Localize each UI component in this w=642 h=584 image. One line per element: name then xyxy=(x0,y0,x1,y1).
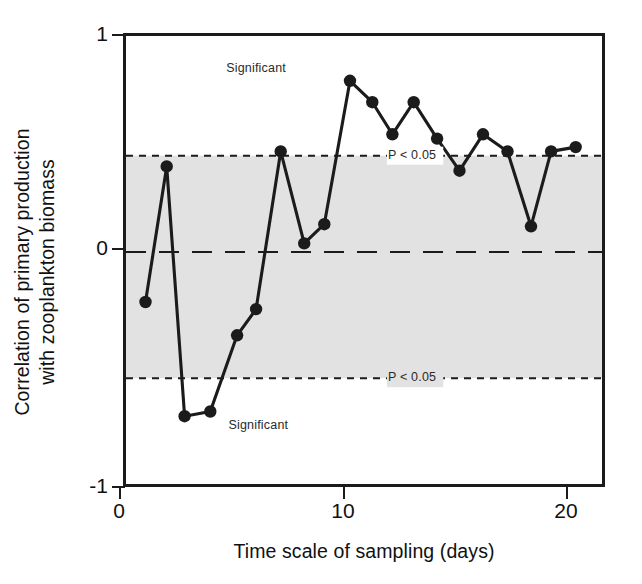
chart-figure: Correlation of primary production with z… xyxy=(0,0,642,584)
annotation-significant-upper: Significant xyxy=(226,61,286,75)
annotation-significant-lower: Significant xyxy=(228,418,288,432)
data-point xyxy=(431,132,443,144)
x-tick-label-20: 20 xyxy=(536,499,596,523)
data-point xyxy=(250,303,262,315)
x-tick-label-10: 10 xyxy=(313,499,373,523)
plot-area: Significant P < 0.05 P < 0.05 Significan… xyxy=(123,33,605,487)
annotation-p-upper: P < 0.05 xyxy=(388,148,436,162)
data-point xyxy=(366,96,378,108)
data-point xyxy=(231,329,243,341)
x-tick-label-0: 0 xyxy=(89,499,149,523)
x-tick-mark-0 xyxy=(119,486,121,499)
data-point xyxy=(545,145,557,157)
data-point xyxy=(178,410,190,422)
data-point xyxy=(204,405,216,417)
data-point xyxy=(344,75,356,87)
data-point xyxy=(298,237,310,249)
data-point xyxy=(408,96,420,108)
x-tick-mark-10 xyxy=(343,486,345,499)
data-point xyxy=(501,145,513,157)
chart-canvas xyxy=(126,36,605,487)
y-tick-label-0: 0 xyxy=(62,236,108,260)
data-point xyxy=(477,128,489,140)
data-point xyxy=(161,160,173,172)
x-tick-mark-20 xyxy=(566,486,568,499)
y-tick-label-1: 1 xyxy=(62,22,108,46)
data-point xyxy=(386,128,398,140)
data-point xyxy=(275,145,287,157)
data-point xyxy=(570,141,582,153)
y-axis-title: Correlation of primary production with z… xyxy=(10,62,60,482)
non-significant-band xyxy=(126,156,605,378)
y-tick-label-neg1: -1 xyxy=(62,474,108,498)
data-point xyxy=(453,165,465,177)
annotation-p-lower: P < 0.05 xyxy=(388,370,436,384)
data-point xyxy=(525,220,537,232)
data-point xyxy=(318,218,330,230)
data-point xyxy=(139,296,151,308)
shaded-band-group xyxy=(126,156,605,378)
x-axis-title: Time scale of sampling (days) xyxy=(123,540,605,563)
